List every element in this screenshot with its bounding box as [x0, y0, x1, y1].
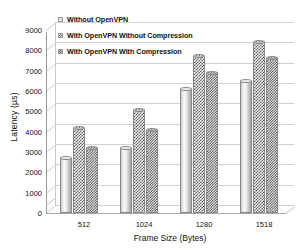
bar-1280-series2[interactable]	[193, 56, 205, 213]
x-axis-title: Frame Size (Bytes)	[46, 233, 294, 243]
bar-1518-series1[interactable]	[240, 81, 252, 213]
bar-top-cap	[206, 71, 218, 75]
bar-face	[60, 158, 72, 213]
legend-label: With OpenVPN Without Compression	[67, 31, 193, 40]
legend-swatch-icon	[58, 49, 63, 54]
bar-1518-series3[interactable]	[266, 58, 278, 213]
legend-label: Without OpenVPN	[67, 15, 128, 24]
bar-1280-series1[interactable]	[180, 89, 192, 213]
bar-face	[193, 56, 205, 213]
bar-face	[86, 148, 98, 213]
bar-top-cap	[86, 146, 98, 150]
bar-face	[73, 128, 85, 213]
y-tick-label: 4000	[12, 128, 42, 137]
bar-top-cap	[120, 146, 132, 150]
x-tick-label: 512	[59, 220, 109, 229]
bar-top-cap	[240, 79, 252, 83]
bar-face	[133, 110, 145, 213]
y-tick-label: 2000	[12, 168, 42, 177]
legend-item-series1[interactable]: Without OpenVPN	[58, 15, 193, 24]
y-tick-label: 6000	[12, 87, 42, 96]
bar-face	[266, 58, 278, 213]
legend-label: With OpenVPN With Compression	[67, 47, 182, 56]
y-tick-label: 8000	[12, 46, 42, 55]
bar-1024-series3[interactable]	[146, 130, 158, 213]
y-tick-label: 3000	[12, 148, 42, 157]
bar-512-series3[interactable]	[86, 148, 98, 213]
bar-top-cap	[180, 87, 192, 91]
legend: Without OpenVPN With OpenVPN Without Com…	[58, 15, 193, 56]
bar-top-cap	[73, 126, 85, 130]
legend-item-series3[interactable]: With OpenVPN With Compression	[58, 47, 193, 56]
x-tick-label: 1024	[119, 220, 169, 229]
y-tick-label: 5000	[12, 107, 42, 116]
y-tick-label: 7000	[12, 67, 42, 76]
bar-face	[240, 81, 252, 213]
bar-1518-series2[interactable]	[253, 42, 265, 213]
x-tick-label: 1280	[179, 220, 229, 229]
bar-512-series1[interactable]	[60, 158, 72, 213]
bar-group	[240, 22, 288, 213]
y-tick-label: 9000	[12, 26, 42, 35]
legend-swatch-icon	[58, 33, 63, 38]
bar-face	[206, 73, 218, 213]
bar-face	[180, 89, 192, 213]
legend-item-series2[interactable]: With OpenVPN Without Compression	[58, 31, 193, 40]
y-tick-label: 1000	[12, 189, 42, 198]
bar-face	[253, 42, 265, 213]
x-tick-label: 1518	[239, 220, 289, 229]
bar-chart: Latency (µs) 010002000300040005000600070…	[0, 0, 304, 251]
bar-face	[146, 130, 158, 213]
bar-1280-series3[interactable]	[206, 73, 218, 213]
legend-swatch-icon	[58, 17, 63, 22]
bar-1024-series1[interactable]	[120, 148, 132, 213]
bar-face	[120, 148, 132, 213]
y-tick-label: 0	[12, 209, 42, 218]
bar-512-series2[interactable]	[73, 128, 85, 213]
bar-top-cap	[146, 128, 158, 132]
bar-1024-series2[interactable]	[133, 110, 145, 213]
